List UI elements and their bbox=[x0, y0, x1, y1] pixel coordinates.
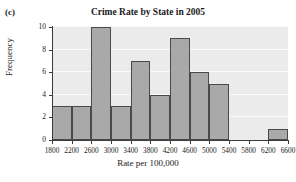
y-axis-tick-label: 0 bbox=[28, 135, 46, 144]
y-axis-tick-label: 2 bbox=[28, 112, 46, 121]
x-axis-tick-label: 5800 bbox=[241, 146, 256, 155]
x-axis-tick-label: 3800 bbox=[143, 146, 158, 155]
histogram-bar bbox=[150, 95, 170, 140]
histogram-bar bbox=[131, 61, 151, 140]
y-axis-tick bbox=[49, 95, 52, 96]
x-axis-tick bbox=[131, 141, 132, 144]
histogram-bar bbox=[190, 72, 210, 140]
histogram-bar bbox=[170, 38, 190, 140]
chart-title: Crime Rate by State in 2005 bbox=[0, 7, 296, 17]
y-axis-tick-label: 4 bbox=[28, 90, 46, 99]
x-axis-tick-label: 2200 bbox=[64, 146, 79, 155]
x-axis-tick-label: 1800 bbox=[45, 146, 60, 155]
y-axis-tick bbox=[49, 72, 52, 73]
x-axis-tick-label: 3000 bbox=[104, 146, 119, 155]
histogram-bar bbox=[209, 84, 229, 141]
x-axis-tick bbox=[52, 141, 53, 144]
x-axis-tick-label: 5400 bbox=[222, 146, 237, 155]
y-axis-tick bbox=[49, 117, 52, 118]
plot-area bbox=[52, 27, 288, 140]
x-axis-tick-label: 2600 bbox=[84, 146, 99, 155]
y-axis-tick-label: 10 bbox=[28, 22, 46, 31]
x-axis-tick bbox=[150, 141, 151, 144]
x-axis-tick bbox=[91, 141, 92, 144]
y-axis-line bbox=[52, 26, 53, 141]
x-axis-tick-label: 4600 bbox=[182, 146, 197, 155]
y-axis-tick-label: 8 bbox=[28, 45, 46, 54]
x-axis-tick bbox=[268, 141, 269, 144]
x-axis-tick-label: 6200 bbox=[261, 146, 276, 155]
histogram-bar bbox=[91, 27, 111, 140]
histogram-bar bbox=[52, 106, 72, 140]
x-axis-tick bbox=[111, 141, 112, 144]
histogram-bar bbox=[268, 129, 288, 140]
histogram-bar bbox=[72, 106, 92, 140]
x-axis-tick-label: 4200 bbox=[163, 146, 178, 155]
x-axis-tick-label: 6600 bbox=[281, 146, 296, 155]
x-axis-tick bbox=[170, 141, 171, 144]
x-axis-tick bbox=[190, 141, 191, 144]
x-axis-tick bbox=[72, 141, 73, 144]
x-axis-label: Rate per 100,000 bbox=[0, 158, 296, 168]
x-axis-tick-label: 5000 bbox=[202, 146, 217, 155]
figure: (c) Crime Rate by State in 2005 0246810 … bbox=[0, 0, 296, 182]
y-axis-tick bbox=[49, 50, 52, 51]
x-axis-tick bbox=[249, 141, 250, 144]
y-axis-tick bbox=[49, 27, 52, 28]
x-axis-tick-label: 3400 bbox=[123, 146, 138, 155]
x-axis-tick bbox=[209, 141, 210, 144]
y-axis-tick-label: 6 bbox=[28, 67, 46, 76]
y-axis-label: Frequency bbox=[4, 17, 14, 97]
x-axis-tick bbox=[288, 141, 289, 144]
histogram-bar bbox=[111, 106, 131, 140]
histogram-bars bbox=[52, 27, 288, 140]
x-axis-tick bbox=[229, 141, 230, 144]
